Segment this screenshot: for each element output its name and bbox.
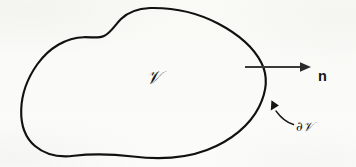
figure-container: 𝒱 ∂𝒱 n xyxy=(0,0,356,167)
boundary-volume-glyph: 𝒱 xyxy=(303,120,313,133)
normal-arrow-head xyxy=(300,62,311,72)
partial-derivative-glyph: ∂ xyxy=(296,119,303,134)
boundary-leader-arrow-head xyxy=(271,100,279,110)
outward-normal-arrow xyxy=(245,62,311,72)
label-normal-vector: n xyxy=(318,69,327,84)
normal-vector-glyph: n xyxy=(318,68,327,84)
label-volume-v: 𝒱 xyxy=(146,68,162,87)
diagram-canvas xyxy=(0,0,356,167)
boundary-leader-arrow xyxy=(271,100,294,124)
region-boundary-curve xyxy=(21,8,265,158)
boundary-leader-line xyxy=(276,111,294,125)
label-boundary-partial-v: ∂𝒱 xyxy=(296,120,314,133)
volume-glyph: 𝒱 xyxy=(146,68,161,87)
